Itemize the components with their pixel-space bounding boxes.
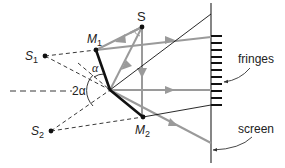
fringes-pointer-arrow [224,68,250,82]
fringe-marks [211,36,222,105]
s1-label: S1 [25,49,38,65]
s2-label: S2 [31,124,44,140]
source-label: S [137,9,146,24]
alpha-label: α [92,61,99,75]
fringes-label: fringes [238,52,274,66]
source-point [140,25,145,30]
screen-pointer-arrow [213,137,252,150]
s2-point [49,129,54,134]
light-rays [96,27,211,143]
m1-point [94,48,99,53]
two-alpha-arc [87,75,93,106]
mirrors [96,50,143,117]
screen-label: screen [238,122,274,136]
m2-label: M2 [135,123,150,139]
m1-label: M1 [87,32,102,48]
mirror-m2 [110,90,143,117]
m2-point [141,115,146,120]
fresnel-mirror-diagram: S M1 M2 S1 S2 α 2α fringes screen [0,0,285,168]
two-alpha-label: 2α [72,84,86,98]
s1-point [43,54,48,59]
